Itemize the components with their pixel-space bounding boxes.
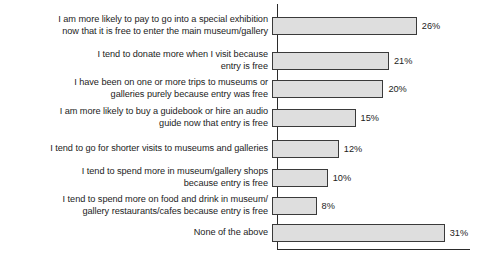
bar xyxy=(272,169,328,187)
chart-row: I am more likely to pay to go into a spe… xyxy=(0,14,487,37)
bar-value-label: 12% xyxy=(344,144,362,154)
bar-zone: 26% xyxy=(272,17,487,35)
bar xyxy=(272,80,383,98)
bar-value-label: 15% xyxy=(361,113,379,123)
category-label: I tend to spend more on food and drink i… xyxy=(0,194,272,217)
bar-value-label: 31% xyxy=(450,228,468,238)
category-label: I have been on one or more trips to muse… xyxy=(0,77,272,100)
chart-row: I tend to go for shorter visits to museu… xyxy=(0,140,487,158)
bar-value-label: 26% xyxy=(422,21,440,31)
chart-row: I tend to donate more when I visit becau… xyxy=(0,49,487,72)
bar-value-label: 8% xyxy=(322,201,335,211)
bar-value-label: 20% xyxy=(388,84,406,94)
category-label: None of the above xyxy=(0,227,272,239)
x-axis-line xyxy=(277,249,470,250)
bar-zone: 10% xyxy=(272,169,487,187)
bar-zone: 8% xyxy=(272,197,487,215)
category-label: I am more likely to buy a guidebook or h… xyxy=(0,106,272,129)
bar-chart: I am more likely to pay to go into a spe… xyxy=(0,0,487,267)
bar-value-label: 21% xyxy=(394,56,412,66)
category-label: I am more likely to pay to go into a spe… xyxy=(0,14,272,37)
bar-zone: 31% xyxy=(272,224,487,242)
bar xyxy=(272,140,339,158)
chart-row: I am more likely to buy a guidebook or h… xyxy=(0,106,487,129)
category-label: I tend to donate more when I visit becau… xyxy=(0,49,272,72)
category-label: I tend to spend more in museum/gallery s… xyxy=(0,166,272,189)
bar xyxy=(272,17,417,35)
category-label: I tend to go for shorter visits to museu… xyxy=(0,143,272,155)
chart-row: I have been on one or more trips to muse… xyxy=(0,77,487,100)
bar-zone: 21% xyxy=(272,52,487,70)
chart-row: I tend to spend more on food and drink i… xyxy=(0,194,487,217)
bar-value-label: 10% xyxy=(333,173,351,183)
bar xyxy=(272,197,317,215)
bar-zone: 12% xyxy=(272,140,487,158)
bar xyxy=(272,109,356,127)
chart-row: None of the above 31% xyxy=(0,224,487,242)
bar xyxy=(272,224,445,242)
chart-row: I tend to spend more in museum/gallery s… xyxy=(0,166,487,189)
bar-zone: 15% xyxy=(272,109,487,127)
bar xyxy=(272,52,389,70)
bar-zone: 20% xyxy=(272,80,487,98)
